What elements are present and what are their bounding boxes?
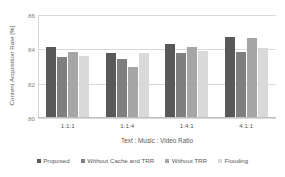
legend-item[interactable]: Flooding <box>218 157 248 164</box>
bar <box>236 52 246 117</box>
bar <box>187 47 197 117</box>
legend-swatch-icon <box>218 159 222 163</box>
y-tick-label: 82 <box>3 80 35 87</box>
bar <box>139 53 149 117</box>
bar <box>68 52 78 117</box>
x-tick-label: 1:1:4 <box>98 122 158 129</box>
bar <box>165 44 175 117</box>
bar-group <box>217 15 277 117</box>
bar <box>198 51 208 117</box>
legend-label: Flooding <box>225 157 249 164</box>
legend-swatch-icon <box>37 159 41 163</box>
bar-groups <box>38 15 276 117</box>
bar-group <box>98 15 158 117</box>
bar <box>46 47 56 117</box>
y-axis-title: Content Acquisition Rate [%] <box>8 11 15 121</box>
legend-label: Without TRR <box>172 157 207 164</box>
x-axis-title: Text : Music : Video Ratio <box>38 137 276 144</box>
bar <box>57 57 67 117</box>
x-tick-label: 1:4:1 <box>157 122 217 129</box>
bar-chart: Content Acquisition Rate [%] 86848280 1:… <box>0 0 285 177</box>
x-tick-labels: 1:1:11:1:41:4:14:1:1 <box>38 122 276 129</box>
bar <box>79 56 89 117</box>
y-tick-label: 84 <box>3 46 35 53</box>
bar <box>128 67 138 117</box>
bar <box>176 53 186 117</box>
bar <box>247 38 257 117</box>
gridline <box>38 118 276 119</box>
legend-swatch-icon <box>165 159 169 163</box>
y-tick-label: 80 <box>3 115 35 122</box>
legend-item[interactable]: Proposed <box>37 157 70 164</box>
bar-group <box>157 15 217 117</box>
legend-swatch-icon <box>81 159 85 163</box>
x-tick-label: 4:1:1 <box>217 122 277 129</box>
legend-label: Proposed <box>43 157 70 164</box>
legend-label: Without Cache and TRR <box>87 157 154 164</box>
bar-group <box>38 15 98 117</box>
legend-item[interactable]: Without Cache and TRR <box>81 157 154 164</box>
chart-legend: ProposedWithout Cache and TRRWithout TRR… <box>0 157 285 164</box>
legend-item[interactable]: Without TRR <box>165 157 207 164</box>
y-tick-label: 86 <box>3 12 35 19</box>
bar <box>225 37 235 117</box>
bar <box>258 48 268 117</box>
bar <box>117 59 127 117</box>
bar <box>106 53 116 117</box>
x-tick-label: 1:1:1 <box>38 122 98 129</box>
plot-area: 86848280 <box>38 15 276 118</box>
